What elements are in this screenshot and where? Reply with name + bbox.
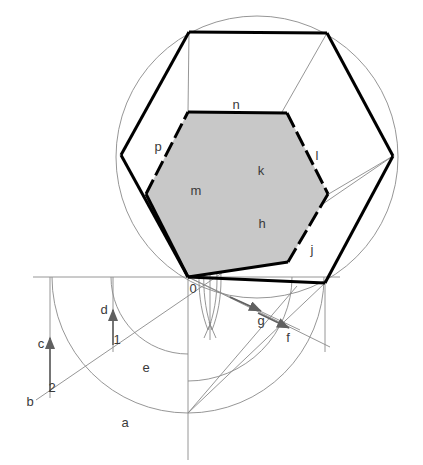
construction-svg: n p l k m h j 0 d g f 1 c e 2 b a: [0, 0, 423, 465]
label-m: m: [191, 183, 202, 198]
label-e: e: [142, 360, 149, 375]
label-one: 1: [113, 332, 120, 347]
label-k: k: [258, 163, 265, 178]
label-h: h: [258, 216, 265, 231]
arrow-g: [230, 297, 261, 311]
label-l: l: [316, 148, 319, 163]
label-j: j: [310, 242, 314, 257]
arc-e: [111, 277, 188, 354]
segment-m-extension: [188, 32, 189, 112]
label-b: b: [26, 394, 33, 409]
outer-hexagon-edge-lower-right: [325, 156, 393, 283]
arc-f: [188, 277, 324, 413]
diagram-canvas: n p l k m h j 0 d g f 1 c e 2 b a: [0, 0, 423, 465]
label-p: p: [154, 139, 161, 154]
label-two: 2: [48, 380, 55, 395]
outer-hexagon-edge-top: [189, 32, 327, 33]
label-f: f: [286, 330, 290, 345]
label-c: c: [38, 336, 45, 351]
label-d: d: [100, 302, 107, 317]
label-zero: 0: [189, 281, 196, 296]
label-n: n: [232, 97, 239, 112]
ray-bottom-to-right-2: [188, 286, 297, 413]
label-a: a: [121, 415, 129, 430]
label-g: g: [257, 313, 264, 328]
